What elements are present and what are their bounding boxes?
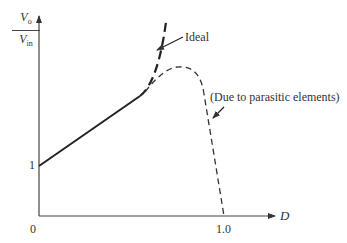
- plot-canvas: [0, 0, 347, 243]
- parasitic-pointer-arrow: [213, 107, 224, 118]
- ideal-curve: [140, 22, 166, 96]
- parasitic-annotation: (Due to parasitic elements): [210, 90, 340, 105]
- x-tick-one: 1.0: [216, 222, 231, 237]
- y-axis-label: Vo Vin: [12, 10, 40, 52]
- ideal-pointer-arrow: [157, 37, 183, 50]
- origin-label: 0: [30, 222, 36, 237]
- x-axis-label: D: [280, 208, 289, 224]
- common-curve: [39, 96, 140, 166]
- ideal-annotation: Ideal: [185, 30, 209, 45]
- y-tick-one: 1: [29, 158, 35, 173]
